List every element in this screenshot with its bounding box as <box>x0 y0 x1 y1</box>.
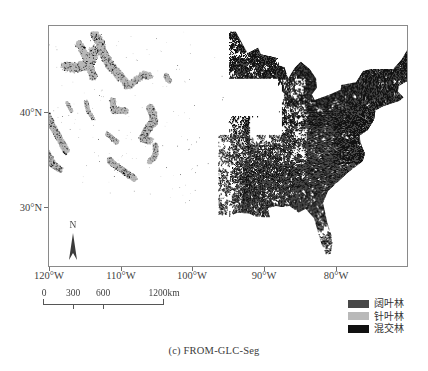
legend-swatch-broadleaf <box>348 300 369 308</box>
scale-bar: 0 300 600 1200km <box>40 288 190 314</box>
y-tick-label: 30°N <box>20 202 42 213</box>
north-arrow: N <box>62 220 84 262</box>
y-tick-mark <box>44 207 48 208</box>
map-legend: 阔叶林 针叶林 混交林 <box>348 298 424 336</box>
x-tick-label: 120°W <box>34 270 64 281</box>
scale-bar-tick <box>163 299 164 305</box>
legend-label-needleleaf: 针叶林 <box>374 311 404 322</box>
scale-bar-label: 0 <box>42 288 47 298</box>
scale-bar-tick <box>103 304 104 309</box>
scale-bar-label: 600 <box>96 288 110 298</box>
north-arrow-label: N <box>62 220 84 230</box>
x-tick-label: 100°W <box>177 270 207 281</box>
legend-swatch-mixed <box>348 325 369 333</box>
scale-bar-tick <box>43 299 44 305</box>
map-plot-frame <box>48 25 408 267</box>
legend-label-mixed: 混交林 <box>374 323 404 334</box>
forest-classification-raster <box>49 26 407 266</box>
x-tick-label: 110°W <box>106 270 135 281</box>
x-tick-label: 80°W <box>324 270 349 281</box>
figure-caption: (c) FROM-GLC-Seg <box>0 345 428 356</box>
y-tick-label: 40°N <box>20 107 42 118</box>
scale-bar-label: 1200km <box>148 288 179 298</box>
scale-bar-label: 300 <box>66 288 80 298</box>
legend-item-mixed: 混交林 <box>348 323 424 335</box>
legend-item-broadleaf: 阔叶林 <box>348 298 424 310</box>
x-tick-label: 90°W <box>252 270 277 281</box>
north-arrow-icon <box>62 232 84 262</box>
legend-swatch-needleleaf <box>348 312 369 320</box>
legend-label-broadleaf: 阔叶林 <box>374 298 404 309</box>
legend-item-needleleaf: 针叶林 <box>348 311 424 323</box>
scale-bar-tick <box>73 304 74 309</box>
y-tick-mark <box>44 112 48 113</box>
